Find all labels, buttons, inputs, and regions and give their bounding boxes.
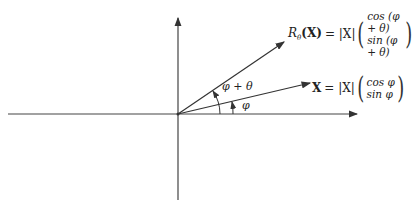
equation-x: X = |X| ( cos φ sin φ ) bbox=[312, 73, 407, 103]
vector-rotated bbox=[178, 42, 284, 114]
matrix-x: cos φ sin φ bbox=[367, 76, 395, 100]
angle-label-phi: φ bbox=[242, 99, 250, 112]
rotation-operator: Rθ(X) bbox=[288, 26, 322, 42]
matrix-rotated: cos (φ + θ) sin (φ + θ) bbox=[367, 10, 403, 58]
angle-label-phi-theta: φ + θ bbox=[222, 80, 253, 93]
equation-x-rhs: = |X| bbox=[324, 81, 355, 95]
angle-arc-phi bbox=[232, 102, 233, 114]
equation-rotated: Rθ(X) = |X| ( cos (φ + θ) sin (φ + θ) ) bbox=[288, 10, 415, 58]
equation-rotated-rhs: = |X| bbox=[325, 27, 356, 41]
vector-x-symbol: X bbox=[312, 81, 321, 95]
angle-arc-phi-theta bbox=[213, 91, 220, 114]
